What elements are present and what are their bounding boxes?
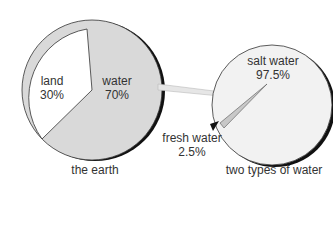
earth-caption: the earth [55, 163, 135, 177]
water-caption: two types of water [214, 163, 333, 177]
fresh-water-label: fresh water2.5% [157, 131, 227, 159]
salt-water-label: salt water97.5% [238, 54, 308, 82]
water-label: water70% [97, 74, 137, 102]
land-label: land30% [32, 74, 72, 102]
